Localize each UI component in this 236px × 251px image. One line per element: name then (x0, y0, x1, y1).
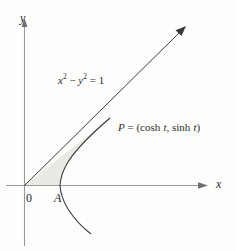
sinh-function-name: sinh (172, 121, 190, 133)
vertex-a-label: A (54, 192, 61, 204)
equation-right-hand-side: = 1 (87, 74, 104, 86)
hyperbolic-sector-figure: y x 0 A x2 − y2 = 1 P = (cosh t, sinh t) (0, 0, 236, 251)
point-p-close-paren: ) (197, 121, 201, 133)
shaded-hyperbolic-sector (25, 118, 111, 186)
curve-equation-label: x2 − y2 = 1 (58, 73, 104, 86)
origin-label: 0 (26, 192, 32, 204)
point-p-label: P = (cosh t, sinh t) (118, 122, 200, 133)
cosh-function-name: cosh (140, 121, 160, 133)
x-axis-label: x (216, 178, 221, 190)
equation-minus-sign: − (67, 74, 79, 86)
x-axis-arrowhead (198, 182, 208, 188)
y-axis-label: y (20, 12, 25, 24)
point-p-equals: = ( (125, 121, 140, 133)
point-p-name: P (118, 121, 125, 133)
hyperbola-lower-arc (60, 186, 91, 235)
ray-through-point-p (25, 31, 182, 186)
